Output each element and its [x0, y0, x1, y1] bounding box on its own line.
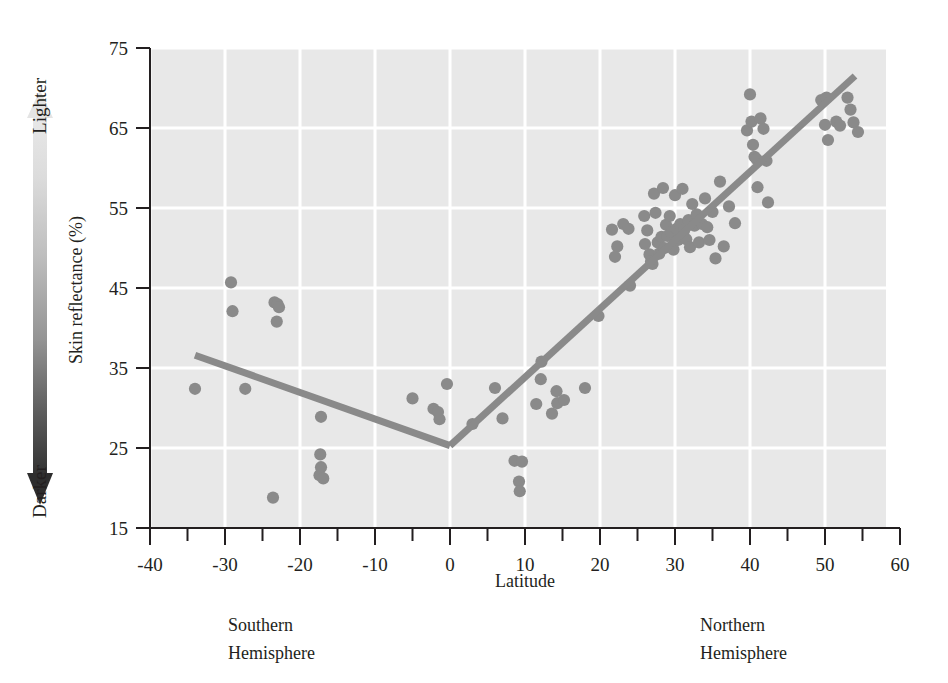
data-point — [611, 240, 623, 252]
x-tick-label: 60 — [891, 554, 910, 575]
x-tick-label: 50 — [816, 554, 835, 575]
data-point — [699, 192, 711, 204]
data-point — [546, 408, 558, 420]
data-point — [762, 196, 774, 208]
x-tick-label: 20 — [591, 554, 610, 575]
data-point — [239, 383, 251, 395]
data-point — [638, 210, 650, 222]
data-point — [822, 134, 834, 146]
y-tick-label: 35 — [109, 358, 128, 379]
y-tick-label: 15 — [109, 518, 128, 539]
data-point — [751, 181, 763, 193]
southern-caption-line2: Hemisphere — [228, 643, 315, 663]
data-point — [271, 316, 283, 328]
data-point — [317, 472, 329, 484]
data-point — [664, 210, 676, 222]
data-point — [441, 378, 453, 390]
data-point — [606, 224, 618, 236]
gradient-bar — [33, 110, 47, 480]
northern-caption-line2: Hemisphere — [700, 643, 787, 663]
data-point — [530, 398, 542, 410]
data-point — [622, 223, 634, 235]
x-axis-title: Latitude — [495, 571, 555, 591]
x-tick-label: -20 — [287, 554, 312, 575]
data-point — [516, 456, 528, 468]
y-tick-label: 75 — [109, 38, 128, 59]
data-point — [657, 182, 669, 194]
data-point — [514, 485, 526, 497]
data-point — [834, 120, 846, 132]
data-point — [496, 412, 508, 424]
data-point — [609, 251, 621, 263]
data-point — [723, 200, 735, 212]
data-point — [226, 305, 238, 317]
x-tick-label: 40 — [741, 554, 760, 575]
data-point — [754, 112, 766, 124]
x-tick-label: 0 — [445, 554, 455, 575]
data-point — [714, 176, 726, 188]
data-point — [686, 198, 698, 210]
data-point — [267, 492, 279, 504]
data-point — [579, 382, 591, 394]
northern-caption-line1: Northern — [700, 615, 765, 635]
data-point — [639, 238, 651, 250]
data-point — [729, 217, 741, 229]
data-point — [819, 119, 831, 131]
data-point — [314, 448, 326, 460]
skin-reflectance-scatter-chart: Lighter Darker Skin reflectance (%) 1525… — [0, 0, 948, 683]
y-tick-label: 25 — [109, 438, 128, 459]
data-point — [558, 394, 570, 406]
data-point — [718, 240, 730, 252]
data-point — [852, 126, 864, 138]
data-point — [489, 382, 501, 394]
figure-container: Lighter Darker Skin reflectance (%) 1525… — [0, 0, 948, 683]
data-point — [315, 411, 327, 423]
data-point — [225, 276, 237, 288]
data-point — [709, 252, 721, 264]
data-point — [693, 236, 705, 248]
gradient-bottom-label: Darker — [29, 465, 50, 518]
data-point — [433, 413, 445, 425]
y-axis-title: Skin reflectance (%) — [66, 216, 87, 364]
x-tick-label: -10 — [362, 554, 387, 575]
data-point — [844, 104, 856, 116]
data-point — [535, 373, 547, 385]
data-point — [701, 221, 713, 233]
data-point — [747, 139, 759, 151]
y-tick-label: 65 — [109, 118, 128, 139]
x-tick-label: -30 — [212, 554, 237, 575]
data-point — [744, 88, 756, 100]
y-tick-label: 55 — [109, 198, 128, 219]
data-point — [406, 392, 418, 404]
data-point — [757, 123, 769, 135]
data-point — [841, 92, 853, 104]
data-point — [189, 383, 201, 395]
data-point — [703, 234, 715, 246]
data-point — [273, 301, 285, 313]
southern-caption-line1: Southern — [228, 615, 293, 635]
x-tick-label: 30 — [666, 554, 685, 575]
data-point — [649, 207, 661, 219]
gradient-top-label: Lighter — [29, 77, 50, 134]
data-point — [641, 224, 653, 236]
data-point — [676, 183, 688, 195]
x-tick-label: -40 — [137, 554, 162, 575]
y-tick-label: 45 — [109, 278, 128, 299]
